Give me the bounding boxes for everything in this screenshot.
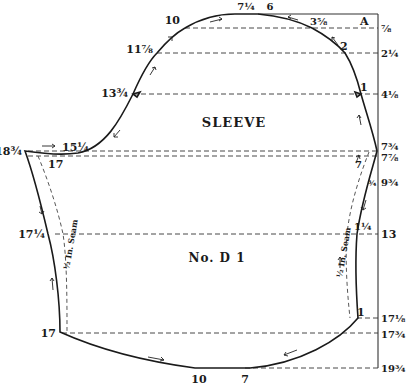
point-label: 3⅝ bbox=[310, 16, 328, 27]
point-label: 6 bbox=[267, 1, 274, 12]
corner-label-a: A bbox=[359, 15, 369, 28]
point-label: 11⅞ bbox=[126, 43, 153, 56]
point-label: 7 bbox=[241, 373, 249, 386]
sleeve-pattern-diagram: SLEEVE No. D 1 A ½ In. Seam ½ In. Seam ⅞… bbox=[0, 0, 406, 390]
point-label: 17 bbox=[41, 327, 56, 340]
piece-number: No. D 1 bbox=[188, 251, 245, 265]
scale-label: 7⅞ bbox=[381, 152, 399, 163]
point-label: 1¼ bbox=[354, 221, 372, 232]
piece-title: SLEEVE bbox=[202, 115, 266, 130]
cap-point-labels: 7¼ 6 10 3⅝ 11⅞ 2 13¾ 1 15¼ 18¾ 17 7 ¾ bbox=[0, 1, 377, 188]
scale-label: 17⅛ bbox=[381, 313, 406, 324]
point-label: 17¼ bbox=[18, 228, 45, 241]
scale-label: 9¾ bbox=[381, 177, 399, 188]
point-label: 18¾ bbox=[0, 145, 23, 158]
point-label: 7 bbox=[355, 159, 362, 170]
point-label: ¾ bbox=[368, 178, 377, 188]
point-label: 10 bbox=[165, 14, 181, 27]
left-seam-line bbox=[38, 156, 67, 332]
scale-label: 19¾ bbox=[381, 363, 406, 374]
scale-label: 4⅛ bbox=[381, 89, 399, 100]
scale-label: 17¾ bbox=[381, 329, 406, 340]
scale-label: 13 bbox=[381, 228, 396, 241]
sleeve-outline bbox=[25, 14, 377, 368]
point-label: 13¾ bbox=[101, 87, 128, 100]
point-label: 7¼ bbox=[237, 1, 255, 12]
point-label: 1 bbox=[360, 81, 368, 94]
scale-label: 7¾ bbox=[381, 141, 399, 152]
point-label: 10 bbox=[191, 373, 207, 386]
direction-arrows bbox=[39, 15, 366, 361]
point-label: 1 bbox=[357, 306, 365, 319]
point-label: 2 bbox=[340, 40, 348, 53]
scale-label: 2¼ bbox=[381, 48, 399, 59]
point-label: 17 bbox=[48, 158, 63, 171]
scale-label: ⅞ bbox=[381, 23, 392, 34]
point-label: 15¼ bbox=[62, 141, 89, 154]
right-scale: ⅞ 2¼ 4⅛ 7¾ 7⅞ 9¾ 13 17⅛ 17¾ 19¾ bbox=[381, 23, 406, 374]
